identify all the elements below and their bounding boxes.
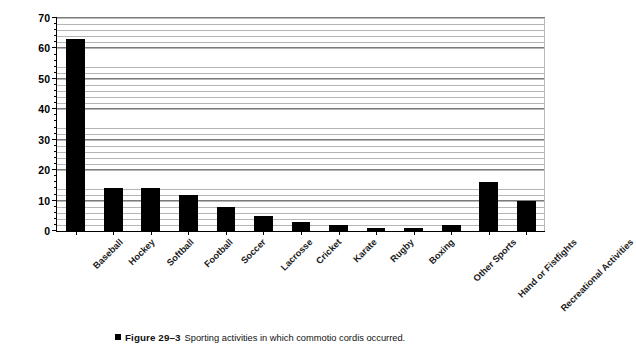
x-tick-label: Karate (351, 237, 378, 264)
x-tick (76, 231, 77, 235)
y-tick-major (52, 78, 57, 79)
x-tick-label: Cricket (314, 237, 343, 266)
y-tick-minor (54, 90, 57, 91)
x-tick-label: Hockey (127, 237, 157, 267)
y-tick-major (52, 47, 57, 48)
x-tick (414, 231, 415, 235)
x-tick (339, 231, 340, 235)
y-tick-major (52, 200, 57, 201)
y-tick-major (52, 169, 57, 170)
plot-area: 010203040506070 (56, 18, 545, 232)
y-tick-minor (54, 102, 57, 103)
y-tick-label: 0 (44, 225, 50, 237)
x-tick (526, 231, 527, 235)
bar (179, 195, 198, 232)
caption-text: Sporting activities in which commotio co… (185, 333, 406, 343)
y-tick-minor (54, 157, 57, 158)
bar (292, 222, 311, 231)
x-tick (188, 231, 189, 235)
y-tick-major (52, 108, 57, 109)
x-tick-label: Rugby (388, 237, 415, 264)
y-tick-major (52, 17, 57, 18)
x-tick-label: Baseball (91, 237, 125, 271)
x-tick (376, 231, 377, 235)
bar (254, 216, 273, 231)
x-tick-label: Lacrosse (279, 237, 315, 273)
y-tick-label: 30 (38, 134, 50, 146)
x-tick (489, 231, 490, 235)
x-tick (113, 231, 114, 235)
figure-caption: Figure 29–3 Sporting activities in which… (115, 332, 405, 343)
y-tick-minor (54, 194, 57, 195)
y-tick-minor (54, 29, 57, 30)
y-tick-minor (54, 145, 57, 146)
y-tick-minor (54, 187, 57, 188)
y-tick-minor (54, 224, 57, 225)
gridline-major (57, 200, 545, 201)
y-tick-label: 60 (38, 42, 50, 54)
y-tick-minor (54, 218, 57, 219)
y-tick-minor (54, 206, 57, 207)
y-tick-minor (54, 175, 57, 176)
x-tick (451, 231, 452, 235)
x-tick-label: Boxing (427, 237, 456, 266)
y-tick-label: 10 (38, 195, 50, 207)
y-tick-minor (54, 133, 57, 134)
x-tick-label: Other Sports (472, 237, 519, 284)
x-tick (151, 231, 152, 235)
x-tick-label: Football (203, 237, 235, 269)
gridline-major (57, 47, 545, 48)
gridline-major (57, 17, 545, 18)
y-tick-label: 40 (38, 103, 50, 115)
bar (479, 182, 498, 231)
x-tick (263, 231, 264, 235)
y-tick-minor (54, 127, 57, 128)
gridline-major (57, 108, 545, 109)
y-tick-minor (54, 54, 57, 55)
y-tick-minor (54, 66, 57, 67)
y-tick-minor (54, 84, 57, 85)
bar (217, 207, 236, 231)
grid-lines-major (57, 18, 545, 231)
gridline-major (57, 78, 545, 79)
bar (104, 188, 123, 231)
x-tick-label: Soccer (239, 237, 268, 266)
y-tick-minor (54, 96, 57, 97)
y-tick-minor (54, 163, 57, 164)
square-marker-icon (115, 334, 121, 340)
y-tick-minor (54, 35, 57, 36)
y-tick-label: 70 (38, 12, 50, 24)
y-tick-minor (54, 212, 57, 213)
y-tick-minor (54, 23, 57, 24)
y-tick-major (52, 230, 57, 231)
y-tick-minor (54, 72, 57, 73)
y-tick-minor (54, 114, 57, 115)
bar (517, 201, 536, 231)
bar (66, 39, 85, 231)
y-tick-minor (54, 151, 57, 152)
figure-number: Figure 29–3 (125, 332, 181, 343)
y-tick-minor (54, 60, 57, 61)
x-tick (301, 231, 302, 235)
y-tick-minor (54, 120, 57, 121)
x-tick-label: Hand or Fistfights (516, 237, 579, 300)
y-tick-label: 50 (38, 73, 50, 85)
x-tick (226, 231, 227, 235)
bar (141, 188, 160, 231)
gridline-major (57, 169, 545, 170)
y-tick-major (52, 139, 57, 140)
y-tick-minor (54, 41, 57, 42)
gridline-major (57, 139, 545, 140)
y-tick-minor (54, 181, 57, 182)
grid-lines (57, 18, 545, 231)
y-tick-label: 20 (38, 164, 50, 176)
x-tick-label: Softball (165, 237, 196, 268)
